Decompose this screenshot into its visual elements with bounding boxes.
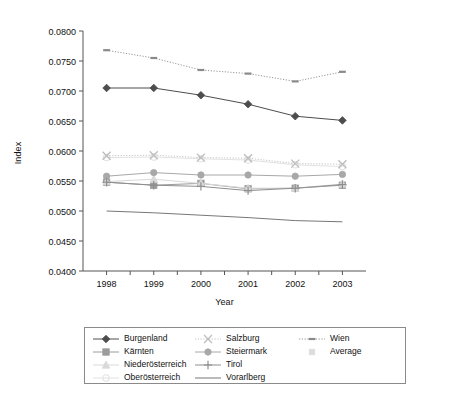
legend-label: Kärnten [121, 346, 154, 357]
legend-item-niedersterreich[interactable]: Niederösterreich [91, 358, 186, 371]
data-point-marker [205, 348, 211, 354]
legend-marker-icon [91, 333, 121, 345]
x-axis-tick-label: 2000 [191, 279, 211, 289]
legend-label: Oberösterreich [121, 372, 180, 383]
data-point-marker [204, 335, 212, 343]
series-burgenland [103, 84, 346, 124]
data-point-marker [198, 172, 204, 178]
legend-item-average[interactable]: Average [297, 345, 362, 358]
x-axis-tick-label: 2001 [238, 279, 258, 289]
x-axis-title: Year [83, 297, 366, 307]
series-line [107, 88, 343, 120]
legend-marker-icon [193, 372, 223, 384]
data-point-marker [309, 349, 314, 354]
series-line [107, 211, 343, 222]
legend-marker-icon [91, 372, 121, 384]
legend-label: Niederösterreich [121, 359, 186, 370]
x-axis-tick-label: 2002 [285, 279, 305, 289]
legend-marker-icon [193, 346, 223, 358]
legend-item-steiermark[interactable]: Steiermark [193, 345, 267, 358]
legend-item-obersterreich[interactable]: Oberösterreich [91, 371, 180, 384]
data-point-marker [245, 172, 251, 178]
x-axis-tick-label: 1998 [97, 279, 117, 289]
data-point-marker [102, 335, 110, 343]
legend-label: Average [327, 346, 362, 357]
series-line [107, 157, 343, 167]
line-chart-svg: 0.04000.04500.05000.05500.06000.06500.07… [0, 0, 462, 318]
y-axis-tick-label: 0.0550 [48, 177, 76, 187]
legend-items-container: BurgenlandKärntenNiederösterreichOberöst… [85, 328, 405, 383]
series-vorarlberg [107, 211, 343, 222]
y-axis-tick-label: 0.0600 [48, 147, 76, 157]
data-point-marker [291, 112, 299, 120]
data-point-marker [103, 84, 111, 92]
legend-marker-icon [193, 333, 223, 345]
legend-marker-icon [91, 359, 121, 371]
x-axis-tick-label: 2003 [332, 279, 352, 289]
legend-item-wien[interactable]: Wien [297, 332, 349, 345]
plot-area: 0.04000.04500.05000.05500.06000.06500.07… [0, 0, 462, 318]
legend-item-salzburg[interactable]: Salzburg [193, 332, 260, 345]
chart-legend: BurgenlandKärntenNiederösterreichOberöst… [84, 327, 406, 384]
series-line [107, 50, 343, 81]
data-point-marker [339, 117, 347, 125]
legend-label: Tirol [223, 359, 242, 370]
legend-marker-icon [91, 346, 121, 358]
legend-item-vorarlberg[interactable]: Vorarlberg [193, 371, 265, 384]
legend-label: Wien [327, 333, 349, 344]
y-axis-tick-label: 0.0650 [48, 117, 76, 127]
data-point-marker [244, 100, 252, 108]
legend-item-krnten[interactable]: Kärnten [91, 345, 154, 358]
legend-item-tirol[interactable]: Tirol [193, 358, 242, 371]
y-axis-title: Index [13, 123, 23, 183]
y-axis-tick-label: 0.0700 [48, 87, 76, 97]
y-axis-tick-label: 0.0450 [48, 237, 76, 247]
y-axis-tick-label: 0.0750 [48, 57, 76, 67]
data-point-marker [339, 171, 345, 177]
series-line [107, 173, 343, 177]
data-point-marker [204, 360, 212, 368]
data-point-marker [197, 91, 205, 99]
legend-marker-icon [297, 346, 327, 358]
legend-label: Salzburg [223, 333, 260, 344]
legend-label: Burgenland [121, 333, 167, 344]
legend-marker-icon [297, 333, 327, 345]
chart-figure: 0.04000.04500.05000.05500.06000.06500.07… [0, 0, 462, 393]
data-point-marker [150, 84, 158, 92]
series-steiermark [103, 169, 345, 179]
data-point-marker [292, 173, 298, 179]
series-obersterreich [103, 154, 345, 170]
legend-marker-icon [193, 359, 223, 371]
legend-label: Steiermark [223, 346, 267, 357]
data-point-marker [151, 169, 157, 175]
legend-item-burgenland[interactable]: Burgenland [91, 332, 167, 345]
x-axis-tick-label: 1999 [144, 279, 164, 289]
data-point-marker [103, 348, 109, 354]
y-axis-tick-label: 0.0800 [48, 27, 76, 37]
legend-label: Vorarlberg [223, 372, 265, 383]
y-axis-tick-label: 0.0400 [48, 267, 76, 277]
series-wien [103, 50, 346, 81]
y-axis-tick-label: 0.0500 [48, 207, 76, 217]
